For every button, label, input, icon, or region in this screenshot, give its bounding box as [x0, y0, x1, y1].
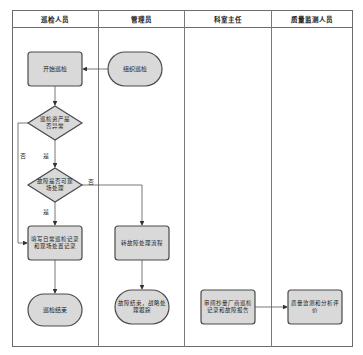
fault-end-label: 故障结束，战略处理跟踪	[117, 290, 167, 324]
fill-records-label: 填写日常巡检记录和现场处置记录	[29, 226, 81, 260]
edge-label-yes-2: 是	[43, 207, 49, 216]
edge-label-no-left: 否	[20, 151, 26, 160]
edge-label-yes-1: 是	[43, 151, 49, 160]
review-reports-label: 审阅抄量厂商巡检记录和故障报告	[202, 290, 254, 324]
fault-onsite-label: 故障是否可现场处理	[36, 172, 74, 198]
quality-eval-label: 质量监测和分析评价	[290, 290, 340, 324]
transfer-fault-label: 转故障处理流程	[115, 226, 169, 260]
inspection-end-label: 巡检结束	[28, 294, 82, 326]
edge-label-no-right: 否	[88, 177, 94, 186]
organize-inspection-label: 组织巡检	[108, 52, 162, 86]
asset-abnormal-label: 巡检资产是否异常	[38, 110, 72, 136]
start-inspection-label: 开始巡检	[28, 52, 82, 86]
